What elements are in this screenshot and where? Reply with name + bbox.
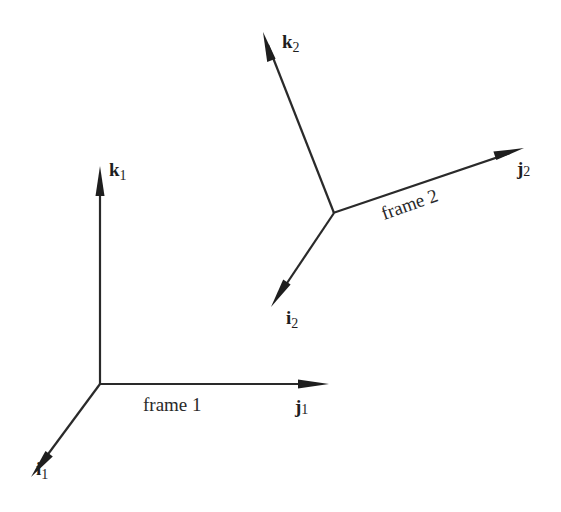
frame-1: k1 j1 i1 frame 1 [31,159,329,482]
label-j1: j1 [294,396,308,417]
label-k1: k1 [109,159,127,183]
frame-2-k-axis [263,32,334,213]
arrow-down-left-icon [271,280,291,308]
frame-2: k2 j2 i2 frame 2 [263,31,530,331]
coordinate-frames-diagram: k1 j1 i1 frame 1 k2 j2 [0,0,561,512]
frame-1-j-axis [99,380,329,389]
label-i2: i2 [286,307,298,331]
arrow-up-icon [96,166,105,196]
label-k2: k2 [282,31,300,55]
frame-1-label: frame 1 [143,394,202,415]
frame-2-i-axis [271,213,334,307]
label-j2: j2 [516,158,530,179]
frame-1-i-axis [31,384,100,477]
frame-1-k-axis [96,166,105,384]
arrow-up-left-icon [263,32,276,62]
arrow-right-icon [298,380,329,389]
frame-2-label: frame 2 [378,184,440,223]
